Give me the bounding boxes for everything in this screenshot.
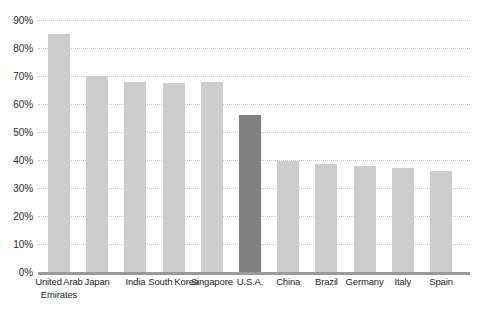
bar-u-s-a[interactable] [239, 115, 261, 272]
y-axis-tick-label: 40% [0, 155, 33, 166]
bar-germany[interactable] [354, 166, 376, 272]
y-axis-tick-label: 20% [0, 211, 33, 222]
bar-spain[interactable] [430, 171, 452, 272]
y-axis-tick-label: 50% [0, 127, 33, 138]
bars-group [38, 0, 470, 272]
bar-united-arab-emirates[interactable] [48, 34, 70, 272]
x-axis-baseline [38, 272, 470, 275]
y-axis-tick-label: 30% [0, 183, 33, 194]
y-axis-tick-label: 0% [0, 267, 33, 278]
y-axis-tick-label: 90% [0, 15, 33, 26]
bar-chart: 0%10%20%30%40%50%60%70%80%90% United Ara… [0, 0, 489, 334]
category-label: Spain [414, 276, 468, 289]
y-axis-tick-label: 60% [0, 99, 33, 110]
bar-singapore[interactable] [201, 82, 223, 272]
bar-india[interactable] [124, 82, 146, 272]
bar-china[interactable] [277, 161, 299, 272]
x-axis-category-labels: United Arab EmiratesJapanIndiaSouth Kore… [38, 276, 478, 334]
bar-south-korea[interactable] [163, 83, 185, 272]
y-axis-tick-label: 70% [0, 71, 33, 82]
y-axis-tick-label: 80% [0, 43, 33, 54]
y-axis-tick-label: 10% [0, 239, 33, 250]
bar-brazil[interactable] [315, 164, 337, 272]
bar-italy[interactable] [392, 168, 414, 272]
bar-japan[interactable] [86, 76, 108, 272]
